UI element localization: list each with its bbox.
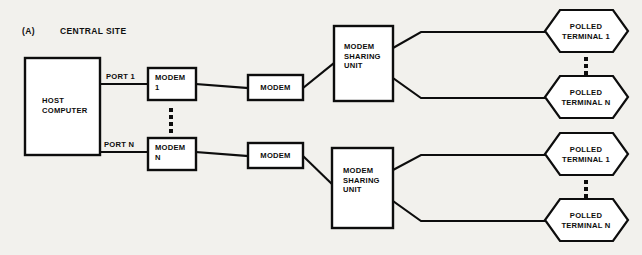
link-sharingunit1-terminalN — [393, 78, 546, 98]
figure-title: CENTRAL SITE — [60, 26, 127, 36]
modem-sharing-unit-lower-box — [332, 148, 393, 228]
port-n-label: PORT N — [104, 140, 134, 149]
polled-terminal-na-hex — [545, 76, 628, 118]
ellipsis-dot — [584, 194, 588, 198]
modem-1-box — [148, 68, 196, 100]
host-computer-box — [25, 58, 100, 155]
ellipsis-dot — [584, 71, 588, 75]
ellipsis-dot — [169, 122, 173, 126]
polled-terminal-nb-hex — [545, 199, 628, 241]
ellipsis-dot — [584, 57, 588, 61]
ellipsis-dot — [169, 115, 173, 119]
ellipsis-dot — [584, 187, 588, 191]
diagram-svg — [0, 0, 642, 255]
link-linemodem-sharingunit-upper — [303, 63, 334, 88]
line-modem-upper-box — [248, 75, 303, 100]
link-sharingunit2-terminal1 — [393, 155, 546, 170]
ellipsis-dot — [169, 108, 173, 112]
diagram-canvas: (A) CENTRAL SITE HOST COMPUTER PORT 1 PO… — [0, 0, 642, 255]
link-sharingunit1-terminal1 — [393, 32, 546, 48]
line-modem-lower-box — [248, 143, 303, 168]
figure-label: (A) — [22, 26, 35, 36]
ellipsis-dot — [169, 129, 173, 133]
ellipsis-dot — [584, 180, 588, 184]
link-linemodem-sharingunit-lower — [303, 156, 334, 186]
port-1-label: PORT 1 — [106, 72, 135, 81]
modem-sharing-unit-upper-box — [334, 26, 393, 101]
link-modemN-linemodem-lower — [196, 152, 248, 156]
modem-n-box — [148, 138, 196, 170]
polled-terminal-1a-hex — [545, 10, 628, 52]
polled-terminal-1b-hex — [545, 133, 628, 175]
link-sharingunit2-terminalN — [393, 201, 546, 221]
link-modem1-linemodem-upper — [196, 84, 248, 88]
ellipsis-dot — [584, 64, 588, 68]
